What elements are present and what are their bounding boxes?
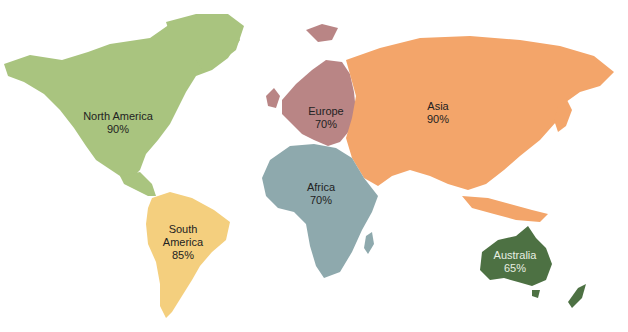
region-europe[interactable]: [282, 60, 356, 146]
label-africa: Africa 70%: [307, 181, 335, 207]
region-scandinavia-top[interactable]: [306, 24, 338, 42]
world-map: [0, 0, 628, 332]
label-europe: Europe 70%: [308, 105, 343, 131]
label-name-line1: South: [163, 223, 203, 236]
label-south-america: South America 85%: [163, 223, 203, 262]
label-value: 90%: [427, 113, 449, 126]
region-uk[interactable]: [266, 88, 280, 108]
label-asia: Asia 90%: [427, 100, 449, 126]
label-value: 90%: [83, 123, 153, 136]
label-value: 70%: [308, 118, 343, 131]
label-value: 85%: [163, 249, 203, 262]
region-tasmania[interactable]: [532, 290, 540, 298]
label-north-america: North America 90%: [83, 110, 153, 136]
label-name: Asia: [427, 100, 449, 113]
region-southeast-asia-islands[interactable]: [462, 196, 548, 222]
region-asia[interactable]: [346, 36, 614, 190]
label-value: 70%: [307, 194, 335, 207]
label-name: North America: [83, 110, 153, 123]
label-name: Africa: [307, 181, 335, 194]
region-new-zealand[interactable]: [568, 284, 586, 308]
label-value: 65%: [494, 262, 537, 275]
label-name: Australia: [494, 249, 537, 262]
region-central-america[interactable]: [120, 172, 156, 196]
region-madagascar[interactable]: [364, 232, 374, 254]
label-name: Europe: [308, 105, 343, 118]
label-name-line2: America: [163, 236, 203, 249]
label-australia: Australia 65%: [494, 249, 537, 275]
